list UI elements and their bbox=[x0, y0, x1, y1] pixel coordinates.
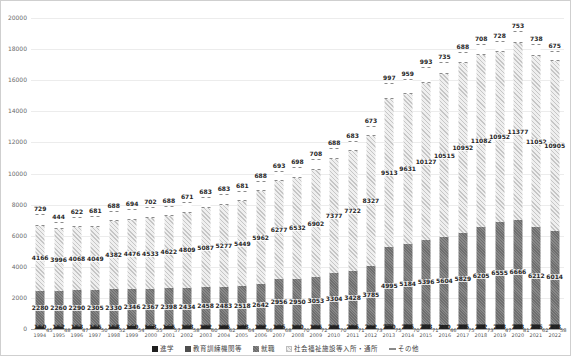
data-label-2017-series4: 688 bbox=[457, 44, 470, 50]
bar-column-2021: 256626212110527382021 bbox=[527, 18, 545, 329]
segment-2018-series4 bbox=[477, 44, 486, 55]
segment-2001-series4 bbox=[164, 206, 173, 217]
chart-canvas: 0200040006000800010000120001400016000180… bbox=[0, 0, 571, 356]
bar-column-2004: 17562248352776832004 bbox=[215, 18, 233, 329]
data-label-2001-series2: 2398 bbox=[159, 304, 178, 310]
bar-column-2019: 258476555109527282019 bbox=[490, 18, 508, 329]
bar-column-2016: 240465604105157352016 bbox=[435, 18, 453, 329]
bar-column-2015: 233715396101279932015 bbox=[417, 18, 435, 329]
y-tick-label: 12000 bbox=[1, 139, 27, 145]
bar-column-2020: 263816666113777532020 bbox=[509, 18, 527, 329]
y-tick-label: 10000 bbox=[1, 171, 27, 177]
bar-2018: 25273620511082708 bbox=[477, 44, 486, 329]
bar-2005: 1786425185449681 bbox=[238, 191, 247, 329]
data-label-2011-series0: 206 bbox=[346, 324, 359, 330]
data-label-1999-series3: 4476 bbox=[123, 251, 142, 257]
data-label-2007-series2: 2956 bbox=[270, 299, 289, 305]
bar-2001: 1655723984622688 bbox=[164, 206, 173, 329]
bar-column-2013: 22075499595139972013 bbox=[380, 18, 398, 329]
data-label-2015-series2: 5396 bbox=[417, 279, 436, 285]
bar-column-2008: 19070295065326982008 bbox=[288, 18, 306, 329]
data-label-2020-series3: 11377 bbox=[507, 129, 530, 135]
bar-2010: 2017033047377688 bbox=[330, 148, 339, 329]
y-tick-label: 18000 bbox=[1, 46, 27, 52]
data-label-1999-series4: 694 bbox=[126, 201, 139, 207]
data-label-2017-series3: 10952 bbox=[451, 145, 474, 151]
y-tick-label: 8000 bbox=[1, 202, 27, 208]
segment-2016-series4 bbox=[440, 62, 449, 73]
data-label-2021-series2: 6212 bbox=[527, 273, 546, 279]
bar-2006: 1826626425962688 bbox=[256, 181, 265, 329]
bar-2015: 23371539610127993 bbox=[422, 67, 431, 329]
bar-column-1995: 15248226039964441995 bbox=[49, 18, 67, 329]
data-label-2015-series4: 993 bbox=[420, 59, 433, 65]
data-label-2020-series2: 6666 bbox=[509, 269, 528, 275]
data-label-2005-series2: 2518 bbox=[233, 303, 252, 309]
segment-2000-series4 bbox=[146, 207, 155, 218]
y-tick-label: 0 bbox=[1, 326, 27, 332]
data-label-2001-series4: 688 bbox=[163, 198, 176, 204]
data-label-2019-series2: 6555 bbox=[490, 270, 509, 276]
data-label-2003-series2: 2458 bbox=[196, 303, 215, 309]
data-label-2000-series2: 2367 bbox=[141, 304, 160, 310]
plot-area: 1504522804166729199415248226039964441995… bbox=[31, 18, 564, 330]
bar-1998: 1585223304382688 bbox=[109, 211, 118, 329]
bar-2020: 26381666611377753 bbox=[513, 31, 522, 329]
legend-item-4: その他 bbox=[389, 346, 419, 353]
legend-item-3: 社会福祉施設等入所・通所 bbox=[286, 346, 378, 353]
bar-2022: 24858601410905675 bbox=[550, 51, 559, 329]
bar-2002: 1685824344809671 bbox=[183, 202, 192, 329]
bar-1995: 1524822603996444 bbox=[54, 222, 63, 329]
data-label-2016-series3: 10515 bbox=[433, 153, 456, 159]
legend-item-0: 進学 bbox=[152, 346, 174, 353]
data-label-2022-series2: 6014 bbox=[545, 274, 564, 280]
data-label-2012-series3: 8327 bbox=[362, 198, 381, 204]
segment-1999-series4 bbox=[128, 209, 137, 220]
bar-column-2011: 20671342877226832011 bbox=[343, 18, 361, 329]
bar-2017: 24675582910952688 bbox=[458, 52, 467, 329]
legend-label-4: その他 bbox=[398, 346, 419, 353]
segment-2011-series4 bbox=[348, 141, 357, 152]
data-label-1997-series2: 2305 bbox=[86, 305, 105, 311]
segment-2003-series4 bbox=[201, 197, 210, 208]
data-label-2000-series3: 4533 bbox=[141, 251, 160, 257]
bar-2014: 2267051849631959 bbox=[403, 79, 412, 329]
segment-1994-series4 bbox=[36, 214, 45, 225]
bar-column-2009: 19572305369027082009 bbox=[307, 18, 325, 329]
data-label-2006-series4: 688 bbox=[254, 173, 267, 179]
data-label-2010-series0: 201 bbox=[328, 324, 341, 330]
segment-1995-series4 bbox=[54, 222, 63, 229]
data-label-2006-series0: 182 bbox=[254, 324, 267, 330]
data-label-1994-series4: 729 bbox=[34, 206, 47, 212]
data-label-2022-series0: 248 bbox=[548, 324, 561, 330]
data-label-2010-series3: 7377 bbox=[325, 213, 344, 219]
data-label-2015-series0: 233 bbox=[420, 324, 433, 330]
data-label-1994-series0: 150 bbox=[34, 324, 47, 330]
data-label-2014-series4: 959 bbox=[401, 71, 414, 77]
data-label-2003-series4: 683 bbox=[199, 189, 212, 195]
bar-column-2001: 16557239846226882001 bbox=[160, 18, 178, 329]
bar-column-2005: 17864251854496812005 bbox=[233, 18, 251, 329]
data-label-2014-series2: 5184 bbox=[398, 281, 417, 287]
legend: 進学教育訓練機関等就職社会福祉施設等入所・通所その他 bbox=[1, 346, 570, 353]
data-label-2021-series4: 738 bbox=[530, 36, 543, 42]
data-label-1997-series0: 155 bbox=[89, 324, 102, 330]
data-label-1995-series3: 3996 bbox=[49, 257, 68, 263]
bar-column-2003: 17260245850876832003 bbox=[196, 18, 214, 329]
segment-1997-series4 bbox=[91, 216, 100, 227]
data-label-2018-series0: 252 bbox=[475, 324, 488, 330]
data-label-2007-series3: 6277 bbox=[270, 227, 289, 233]
data-label-2019-series3: 10952 bbox=[488, 134, 511, 140]
segment-2005-series4 bbox=[238, 191, 247, 202]
bar-2003: 1726024585087683 bbox=[201, 197, 210, 329]
data-label-2013-series2: 4995 bbox=[380, 283, 399, 289]
data-label-2004-series3: 5277 bbox=[215, 243, 234, 249]
data-label-2010-series2: 3304 bbox=[325, 296, 344, 302]
bar-column-2006: 18266264259626882006 bbox=[252, 18, 270, 329]
bar-2012: 2127337858327673 bbox=[366, 126, 375, 329]
segment-2017-series4 bbox=[458, 52, 467, 63]
data-label-1998-series4: 688 bbox=[107, 203, 120, 209]
data-label-2016-series2: 5604 bbox=[435, 278, 454, 284]
bar-column-2007: 18668295662776932007 bbox=[270, 18, 288, 329]
data-label-1999-series0: 160 bbox=[126, 324, 139, 330]
